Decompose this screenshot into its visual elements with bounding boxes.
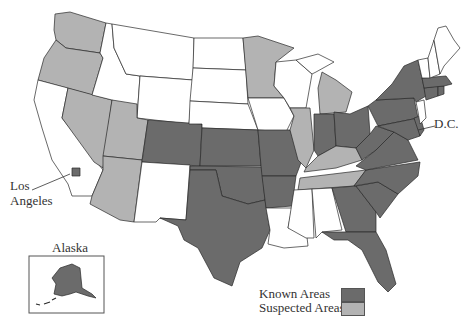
- legend-suspected-label: Suspected Areas: [259, 300, 345, 316]
- alaska-label: Alaska: [52, 240, 88, 255]
- state-new-york: [376, 60, 426, 102]
- los-angeles-label-line2: Angeles: [10, 193, 53, 208]
- state-rhode-island: [438, 86, 444, 96]
- los-angeles-pointer: [32, 174, 70, 190]
- state-colorado: [142, 120, 202, 166]
- state-arkansas: [262, 176, 296, 208]
- state-new-mexico: [134, 162, 190, 222]
- state-north-dakota: [193, 38, 246, 70]
- state-michigan: [318, 72, 352, 114]
- us-map: [0, 0, 472, 327]
- state-wyoming: [137, 76, 193, 124]
- state-florida: [322, 232, 396, 292]
- dc-label: D.C.: [434, 116, 459, 131]
- los-angeles-area: [72, 168, 80, 176]
- los-angeles-label-line1: Los: [10, 178, 30, 193]
- state-kansas: [200, 128, 261, 166]
- legend-suspected-swatch: [341, 302, 365, 316]
- legend-known-swatch: [341, 288, 365, 302]
- state-south-dakota: [190, 68, 248, 104]
